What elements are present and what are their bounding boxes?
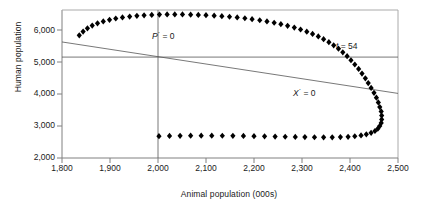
data-point-marker [316,33,321,39]
data-point-marker [220,133,225,139]
data-point-marker [283,134,288,140]
data-point-marker [257,17,262,23]
data-point-marker [199,133,204,139]
x-dot-zero-annotation: X· = 0 [293,88,315,98]
data-point-marker [95,20,100,26]
x-tick-marks [62,158,398,163]
data-point-marker [212,13,217,19]
y-tick-marks [57,30,62,158]
data-point-marker [363,75,368,81]
data-point-marker [364,131,369,137]
data-point-marker [345,53,350,59]
data-point-marker [113,15,118,21]
t-54-annotation: t = 54 [336,41,358,51]
data-point-marker [149,12,154,18]
data-point-marker [338,134,343,140]
data-point-marker [134,13,139,19]
annot-dot: · [158,29,160,36]
data-point-marker [196,12,201,18]
data-point-marker [358,132,363,138]
data-point-marker [345,134,350,140]
data-point-marker [219,13,224,19]
p-dot-zero-annotation: P· = 0 [152,31,174,41]
annot-eq: = 54 [341,41,358,51]
annot-var: t [336,41,338,51]
data-point-marker [369,85,374,91]
data-point-marker [188,12,193,18]
data-point-marker [304,29,309,35]
data-point-marker [77,32,82,38]
data-point-marker [107,17,112,23]
data-point-marker [272,20,277,26]
plot-area [0,0,425,210]
data-point-marker [321,36,326,42]
data-point-marker [356,66,361,72]
data-point-marker [230,133,235,139]
data-point-marker [180,11,185,17]
data-point-marker [101,18,106,24]
data-point-marker [359,70,364,76]
data-point-marker [141,12,146,18]
data-point-marker [165,11,170,17]
data-point-marker [262,133,267,139]
data-point-marker [371,90,376,96]
chart-figure: Human population 6,000 5,000 4,000 3,000… [0,0,425,210]
data-point-marker [85,25,90,31]
data-point-marker [298,26,303,32]
data-point-marker [235,14,240,20]
data-point-marker [278,21,283,27]
data-point-marker [312,134,317,140]
annot-dot: · [299,86,301,93]
data-point-marker [177,133,182,139]
data-point-marker [292,24,297,30]
data-point-marker [273,133,278,139]
data-point-marker [241,133,246,139]
data-point-marker [209,133,214,139]
data-point-marker [167,133,172,139]
data-point-marker [81,28,86,34]
data-point-marker [127,13,132,19]
data-point-marker [285,23,290,29]
data-point-marker [188,133,193,139]
data-point-marker [120,14,125,20]
data-point-marker [366,80,371,86]
data-point-marker [264,18,269,24]
data-point-marker [352,61,357,67]
annot-eq: = 0 [303,88,315,98]
data-point-marker [321,134,326,140]
data-point-marker [249,16,254,22]
data-point-marker [242,15,247,21]
data-point-marker [227,14,232,20]
data-point-marker [310,31,315,37]
x-axis-title: Animal population (000s) [60,189,398,199]
data-point-marker [302,134,307,140]
data-point-marker [326,39,331,45]
data-point-marker [348,57,353,63]
data-point-marker [90,23,95,29]
data-point-marker [352,133,357,139]
data-point-marker [330,134,335,140]
data-point-marker [203,12,208,18]
data-point-marker [251,133,256,139]
data-point-marker [172,11,177,17]
annot-eq: = 0 [162,31,174,41]
trajectory-marker-layer [77,11,385,140]
data-point-marker [156,133,161,139]
data-point-marker [293,134,298,140]
